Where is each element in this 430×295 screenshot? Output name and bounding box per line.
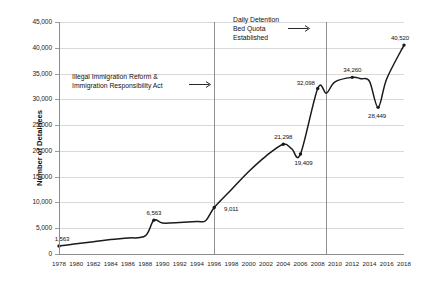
annotation-illegal-immigration-reform-act: Illegal Immigration Reform &Immigration … <box>72 72 163 90</box>
x-axis-tick: 2010 <box>328 260 342 267</box>
y-axis-tick: 25,000 <box>0 121 52 128</box>
x-axis-tick: 1990 <box>156 260 170 267</box>
x-axis-tick: 2006 <box>294 260 308 267</box>
line-series <box>59 22 404 254</box>
annotation-line: Daily Detention <box>233 15 279 24</box>
annotation-arrow-2-icon <box>288 24 314 33</box>
data-point-marker <box>299 152 302 155</box>
x-axis-tick: 1986 <box>121 260 135 267</box>
x-axis-tick: 1994 <box>190 260 204 267</box>
x-axis-tick: 2000 <box>242 260 256 267</box>
gridline <box>59 254 404 255</box>
x-axis-tick: 2018 <box>397 260 411 267</box>
detention-population-chart: Number of Detainees 05,00010,00015,00020… <box>0 0 430 295</box>
x-axis-tick: 2004 <box>276 260 290 267</box>
x-axis-tick: 1982 <box>87 260 101 267</box>
data-label: 32,098 <box>297 79 315 86</box>
data-point-marker <box>402 43 405 46</box>
y-axis-tick: 30,000 <box>0 95 52 102</box>
data-point-marker <box>213 206 216 209</box>
annotation-daily-detention-bed-quota: Daily DetentionBed QuotaEstablished <box>233 15 279 43</box>
y-axis-line <box>59 22 60 254</box>
x-axis-tick: 2016 <box>380 260 394 267</box>
y-axis-tick: 45,000 <box>0 18 52 25</box>
x-axis-tick: 2002 <box>259 260 273 267</box>
x-axis-tick: 2012 <box>345 260 359 267</box>
y-axis-tick: 20,000 <box>0 147 52 154</box>
data-label: 40,520 <box>391 34 409 41</box>
annotation-arrow-1-icon <box>189 80 215 89</box>
data-label: 19,409 <box>294 159 312 166</box>
data-label: 9,011 <box>224 205 238 212</box>
y-axis-tick: 0 <box>0 250 52 257</box>
x-axis-tick: 1996 <box>207 260 221 267</box>
x-axis-tick: 1988 <box>138 260 152 267</box>
y-axis-tick: 40,000 <box>0 44 52 51</box>
plot-area: 1,5636,5639,01121,29819,40932,09834,2602… <box>59 22 404 254</box>
data-point-marker <box>152 218 155 221</box>
x-axis-tick: 2008 <box>311 260 325 267</box>
x-axis-tick: 1980 <box>69 260 83 267</box>
data-point-marker <box>282 142 285 145</box>
x-axis-tick: 1984 <box>104 260 118 267</box>
data-label: 6,563 <box>147 209 162 216</box>
x-axis-tick: 1992 <box>173 260 187 267</box>
data-point-marker <box>376 106 379 109</box>
annotation-line: Illegal Immigration Reform & <box>72 72 163 81</box>
data-label: 34,260 <box>343 66 361 73</box>
annotation-line: Bed Quota <box>233 24 279 33</box>
x-axis-tick: 1998 <box>225 260 239 267</box>
data-label: 21,298 <box>274 133 292 140</box>
data-label: 1,563 <box>55 235 70 242</box>
y-axis-tick: 15,000 <box>0 173 52 180</box>
data-label: 28,449 <box>368 112 386 119</box>
x-axis-tick: 1978 <box>52 260 66 267</box>
annotation-line: Established <box>233 33 279 42</box>
y-axis-tick: 5,000 <box>0 224 52 231</box>
y-axis-tick: 10,000 <box>0 198 52 205</box>
data-point-marker <box>351 76 354 79</box>
data-point-marker <box>316 87 319 90</box>
y-axis-tick: 35,000 <box>0 70 52 77</box>
annotation-line: Immigration Responsibility Act <box>72 81 163 90</box>
x-axis-tick: 2014 <box>363 260 377 267</box>
